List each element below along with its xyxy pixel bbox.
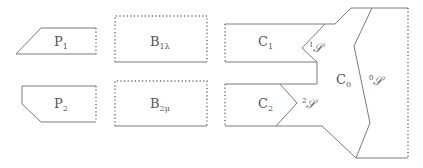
node-c2: C2 2𝒮 <box>225 84 356 158</box>
interface-s0-label: 0𝒮 <box>369 74 386 88</box>
p1-label: P1 <box>54 34 68 51</box>
c1-outline <box>225 8 351 24</box>
c1-label: C1 <box>258 34 273 51</box>
c0-label: C0 <box>336 72 351 89</box>
b1-label: B1λ <box>150 34 170 51</box>
b1-dotted-outline <box>115 16 207 62</box>
composition-diagram: P1 P2 B1λ B2μ C1 1𝒮 C2 2𝒮 <box>0 0 423 168</box>
node-b2-mu: B2μ <box>115 81 207 126</box>
node-p1: P1 <box>16 28 96 54</box>
c0-divider <box>354 8 372 158</box>
interface-s1-label: 1𝒮 <box>309 41 326 55</box>
c2-notch <box>276 84 297 126</box>
c2-label: C2 <box>258 96 273 113</box>
node-c0: C0 0𝒮 <box>336 8 408 158</box>
b2-label: B2μ <box>150 96 170 113</box>
node-p2: P2 <box>22 86 96 122</box>
node-b1-lambda: B1λ <box>115 16 207 62</box>
p2-label: P2 <box>54 96 68 113</box>
interface-s2-label: 2𝒮 <box>302 97 319 111</box>
c2-bottom-edge <box>225 126 356 158</box>
node-c1: C1 1𝒮 <box>225 8 351 62</box>
